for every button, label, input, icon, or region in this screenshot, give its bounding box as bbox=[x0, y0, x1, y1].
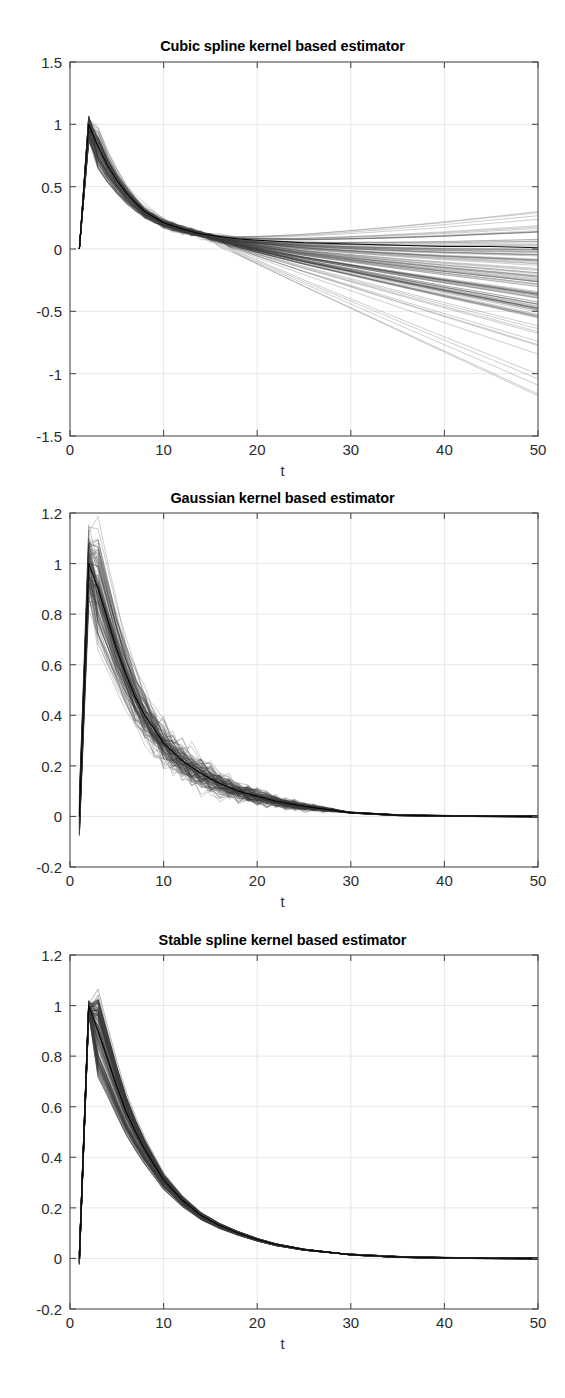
curve-family-gaussian bbox=[79, 516, 538, 836]
x-axis-label-gaussian: t bbox=[0, 894, 565, 910]
y-tick-label: -1.5 bbox=[36, 428, 62, 445]
x-tick-label: 30 bbox=[342, 441, 359, 458]
chart-title-gaussian: Gaussian kernel based estimator bbox=[0, 490, 565, 506]
y-tick-label: -1 bbox=[49, 365, 62, 382]
y-tick-label: 1 bbox=[54, 116, 62, 133]
y-tick-label: 0.8 bbox=[41, 1048, 62, 1065]
chart-title-stable-spline: Stable spline kernel based estimator bbox=[0, 932, 565, 948]
y-tick-label: 0.8 bbox=[41, 606, 62, 623]
chart-canvas-gaussian bbox=[69, 512, 539, 868]
plot-area-cubic-spline bbox=[69, 61, 539, 437]
x-tick-label: 50 bbox=[530, 441, 547, 458]
mean-curve bbox=[79, 1006, 538, 1259]
x-tick-label: 20 bbox=[249, 1314, 266, 1331]
x-tick-label: 20 bbox=[249, 872, 266, 889]
curve-family-stable-spline bbox=[79, 989, 538, 1264]
y-tick-label: 0.2 bbox=[41, 1199, 62, 1216]
y-tick-label: 1 bbox=[54, 555, 62, 572]
y-tick-label: 0 bbox=[54, 808, 62, 825]
x-axis-label-cubic-spline: t bbox=[0, 463, 565, 479]
chart-canvas-cubic-spline bbox=[69, 61, 539, 437]
y-tick-label: 0 bbox=[54, 241, 62, 258]
y-tick-label: 0.5 bbox=[41, 178, 62, 195]
x-tick-label: 10 bbox=[155, 441, 172, 458]
y-tick-label: 0.6 bbox=[41, 656, 62, 673]
x-axis-label-stable-spline: t bbox=[0, 1336, 565, 1352]
x-tick-label: 10 bbox=[155, 872, 172, 889]
chart-title-cubic-spline: Cubic spline kernel based estimator bbox=[0, 38, 565, 54]
y-tick-label: 0.4 bbox=[41, 707, 62, 724]
x-tick-label: 10 bbox=[155, 1314, 172, 1331]
x-tick-label: 30 bbox=[342, 872, 359, 889]
y-tick-label: 0.6 bbox=[41, 1098, 62, 1115]
x-tick-label: 30 bbox=[342, 1314, 359, 1331]
y-tick-label: 1 bbox=[54, 997, 62, 1014]
x-tick-label: 0 bbox=[66, 1314, 74, 1331]
y-tick-label: 0.4 bbox=[41, 1149, 62, 1166]
y-tick-label: -0.5 bbox=[36, 303, 62, 320]
mean-curve bbox=[79, 564, 538, 817]
x-tick-label: 50 bbox=[530, 872, 547, 889]
plot-area-stable-spline bbox=[69, 954, 539, 1310]
y-tick-label: -0.2 bbox=[36, 859, 62, 876]
curve-family-cubic-spline bbox=[79, 116, 538, 396]
x-tick-label: 0 bbox=[66, 441, 74, 458]
x-tick-label: 20 bbox=[249, 441, 266, 458]
y-tick-label: 0 bbox=[54, 1250, 62, 1267]
figure-page: Cubic spline kernel based estimator -1.5… bbox=[0, 0, 565, 1398]
x-tick-label: 0 bbox=[66, 872, 74, 889]
x-tick-label: 50 bbox=[530, 1314, 547, 1331]
y-tick-label: 0.2 bbox=[41, 757, 62, 774]
x-tick-label: 40 bbox=[436, 872, 453, 889]
y-tick-label: 1.2 bbox=[41, 947, 62, 964]
y-tick-label: 1.5 bbox=[41, 54, 62, 71]
x-tick-label: 40 bbox=[436, 1314, 453, 1331]
y-tick-label: 1.2 bbox=[41, 505, 62, 522]
plot-area-gaussian bbox=[69, 512, 539, 868]
y-tick-label: -0.2 bbox=[36, 1301, 62, 1318]
chart-canvas-stable-spline bbox=[69, 954, 539, 1310]
x-tick-label: 40 bbox=[436, 441, 453, 458]
